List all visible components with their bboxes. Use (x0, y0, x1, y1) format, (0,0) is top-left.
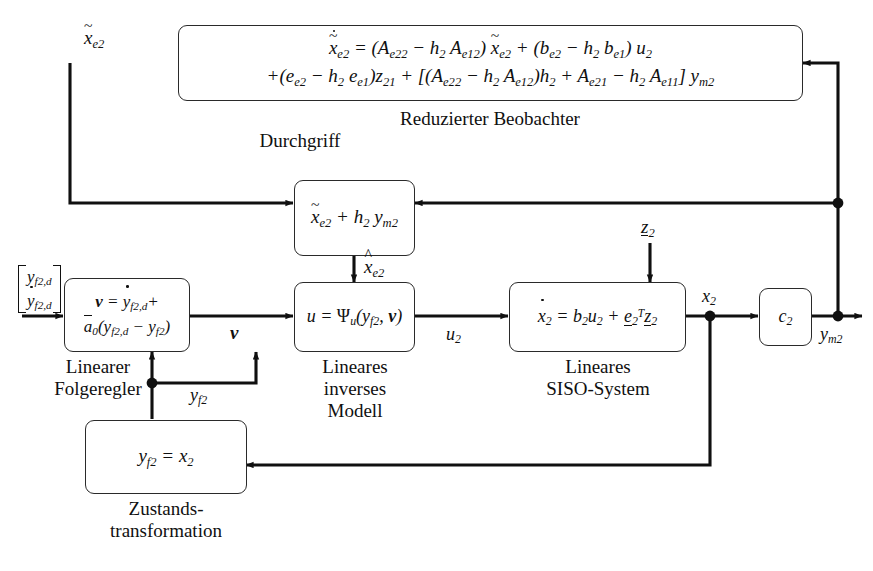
diagram-canvas: xe2 = (Ae22 − h2 Ae12) xe2 + (be2 − h2 b… (0, 0, 873, 571)
state-transform-equation: yf2 = x2 (138, 443, 193, 471)
block-lineares-siso-system[interactable]: x2 = b2u2 + e2Tz2 (509, 282, 686, 352)
block-reduzierter-beobachter[interactable]: xe2 = (Ae22 − h2 Ae12) xe2 + (be2 − h2 b… (178, 25, 803, 101)
reference-input-vector: yf2,d yf2,d (18, 265, 61, 313)
signal-label-yf2: yf2 (190, 385, 207, 408)
wire-ym2-to-observer (803, 63, 838, 203)
siso-equation: x2 = b2u2 + e2Tz2 (538, 304, 657, 330)
junction-x2 (705, 311, 716, 322)
controller-equation-line1: ν = yf2,d+ (84, 290, 170, 315)
controller-equation-line2: a0(yf2,d − yf2) (84, 315, 170, 340)
block-ausgangsmatrix[interactable]: c2 (759, 288, 812, 346)
wire-yf2-to-inverse-model (152, 352, 256, 383)
reference-top: yf2,d (27, 267, 52, 288)
signal-label-x2: x2 (702, 286, 716, 309)
junction-ym2 (833, 311, 844, 322)
caption-lineares-siso-system: Lineares SISO-System (532, 356, 664, 400)
signal-label-xhat-e2: xe2 (364, 256, 384, 281)
block-linearer-folgeregler[interactable]: ν = yf2,d+ a0(yf2,d − yf2) (64, 278, 190, 352)
block-zustandstransformation[interactable]: yf2 = x2 (85, 420, 247, 494)
inverse-model-equation: u = Ψu(yf2, ν) (307, 304, 403, 330)
observer-equation-line1: xe2 = (Ae22 − h2 Ae12) xe2 + (be2 − h2 b… (267, 35, 715, 63)
block-lineares-inverses-modell[interactable]: u = Ψu(yf2, ν) (294, 282, 415, 352)
durchgriff-equation: xe2 + h2 ym2 (311, 204, 398, 232)
caption-linearer-folgeregler: Linearer Folgeregler (34, 356, 162, 400)
signal-label-z2: z2 (641, 216, 655, 241)
observer-equation-line2: +(ee2 − h2 ee1)z21 + [(Ae22 − h2 Ae12)h2… (267, 63, 715, 91)
output-gain-equation: c2 (779, 304, 793, 330)
caption-durchgriff: Durchgriff (215, 130, 385, 152)
junction-ym2-upper (833, 198, 844, 209)
signal-label-xtilde-e2: xe2 (84, 27, 104, 52)
signal-label-nu: ν (230, 322, 238, 344)
reference-bottom: yf2,d (27, 291, 52, 312)
caption-lineares-inverses-modell: Lineares inverses Modell (292, 356, 418, 422)
signal-label-u2: u2 (446, 324, 461, 347)
caption-reduzierter-beobachter: Reduzierter Beobachter (340, 108, 640, 130)
signal-label-ym2: ym2 (820, 324, 843, 347)
block-durchgriff[interactable]: xe2 + h2 ym2 (294, 180, 415, 256)
caption-zustandstransformation: Zustands- transformation (66, 498, 266, 542)
junction-dots (147, 198, 844, 389)
